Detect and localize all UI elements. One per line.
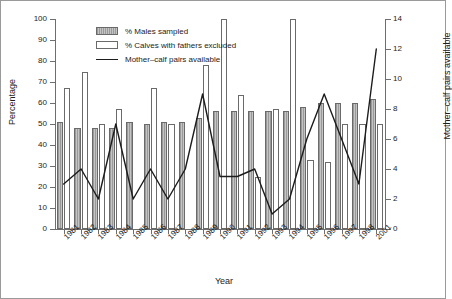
y-axis-right-label: Mother–calf pairs available	[442, 16, 452, 156]
y-tick-label-right: 0	[393, 225, 397, 233]
legend-item-males: % Males sampled	[96, 25, 236, 37]
y-tick-right	[386, 139, 391, 140]
y-tick-label-right: 4	[393, 165, 397, 173]
x-axis-label: Year	[1, 276, 447, 286]
y-tick-label-left: 60	[19, 99, 47, 107]
y-tick-label-right: 2	[393, 195, 397, 203]
chart-legend: % Males sampled % Calves with fathers ex…	[96, 25, 236, 67]
legend-label-pairs: Mother–calf pairs available	[125, 55, 220, 64]
y-tick-label-left: 40	[19, 141, 47, 149]
y-tick-right	[386, 19, 391, 20]
y-tick-label-right: 12	[393, 45, 402, 53]
y-axis-left-label: Percentage	[7, 62, 17, 142]
y-tick-label-right: 14	[393, 15, 402, 23]
y-tick-right	[386, 109, 391, 110]
y-tick-label-left: 80	[19, 57, 47, 65]
y-tick-label-left: 70	[19, 78, 47, 86]
y-tick-label-left: 0	[19, 225, 47, 233]
y-tick-right	[386, 169, 391, 170]
y-tick-right	[386, 49, 391, 50]
legend-swatch-calves-icon	[96, 41, 118, 49]
legend-swatch-males-icon	[96, 27, 118, 35]
y-tick-right	[386, 79, 391, 80]
y-tick-label-left: 90	[19, 36, 47, 44]
y-tick-label-right: 6	[393, 135, 397, 143]
y-tick-right	[386, 199, 391, 200]
legend-item-calves: % Calves with fathers excluded	[96, 39, 236, 51]
y-tick-label-left: 50	[19, 120, 47, 128]
y-tick-label-left: 30	[19, 162, 47, 170]
legend-item-pairs: Mother–calf pairs available	[96, 53, 236, 65]
y-tick-label-right: 8	[393, 105, 397, 113]
y-tick-label-left: 20	[19, 183, 47, 191]
legend-swatch-line-icon	[96, 55, 118, 63]
y-tick-label-left: 100	[19, 15, 47, 23]
y-tick-label-right: 10	[393, 75, 402, 83]
y-tick-label-left: 10	[19, 204, 47, 212]
legend-label-males: % Males sampled	[125, 27, 188, 36]
legend-label-calves: % Calves with fathers excluded	[125, 41, 236, 50]
